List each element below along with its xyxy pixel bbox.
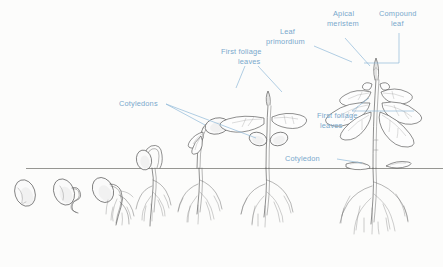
- label-first-foliage-leaves-top-line2: leaves: [238, 57, 261, 66]
- stage-7-compound-leaf-seedling: [325, 58, 421, 234]
- label-first-foliage-leaves-lower-line2: leaves: [320, 121, 343, 130]
- leader-leaf-primordium: [314, 46, 352, 62]
- label-compound-leaf-line1: Compound: [379, 9, 417, 18]
- stage-5-cotyledon-emergence: [178, 116, 230, 224]
- stage-1-dormant-seed: [11, 177, 38, 209]
- leader-cotyledon-singular: [337, 159, 362, 163]
- stage-3-root-development: [88, 174, 134, 225]
- leader-first-foliage-top-b: [258, 66, 282, 92]
- germination-diagram: Cotyledons First foliage leaves Leaf pri…: [0, 0, 443, 267]
- label-first-foliage-leaves-lower-line1: First foliage: [317, 111, 358, 120]
- label-leaf-primordium-line2: primordium: [266, 37, 305, 46]
- label-apical-meristem-line2: meristem: [327, 19, 359, 28]
- label-apical-meristem-line1: Apical: [333, 9, 354, 18]
- label-cotyledons: Cotyledons: [119, 99, 158, 108]
- leader-apical-meristem: [345, 38, 370, 66]
- leader-cotyledons-a: [166, 104, 205, 125]
- label-leaf-primordium-line1: Leaf: [280, 27, 296, 36]
- leader-first-foliage-top-a: [236, 66, 245, 88]
- label-compound-leaf-line2: leaf: [391, 19, 404, 28]
- stage-4-hypocotyl-arch: [135, 145, 171, 226]
- leader-compound-leaf: [364, 33, 399, 63]
- label-cotyledon-singular: Cotyledon: [285, 154, 320, 163]
- stage-2-radicle-emergence: [50, 176, 81, 213]
- shed-cotyledon-right: [386, 162, 411, 169]
- label-first-foliage-leaves-top-line1: First foliage: [221, 47, 262, 56]
